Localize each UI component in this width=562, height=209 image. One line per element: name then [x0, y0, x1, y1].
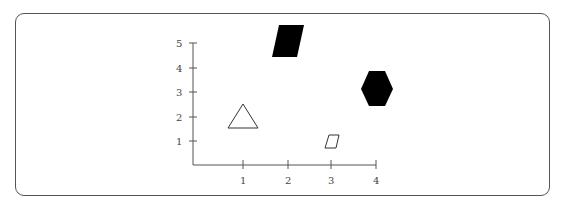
x-tick-label: 4 [373, 175, 379, 186]
y-tick-label: 1 [176, 136, 182, 147]
x-tick-label: 2 [285, 175, 291, 186]
y-tick-label: 3 [176, 87, 182, 98]
triangle-shape [228, 104, 258, 128]
parallelogram-small-shape [325, 135, 339, 148]
coordinate-diagram: 5 4 3 2 1 1 2 3 4 [0, 0, 562, 209]
parallelogram-large-shape [272, 25, 304, 57]
hexagon-shape [361, 71, 393, 106]
y-tick-label: 4 [176, 63, 182, 74]
x-tick-label: 1 [240, 175, 246, 186]
y-tick-label: 2 [176, 112, 182, 123]
y-tick-label: 5 [176, 38, 182, 49]
x-tick-label: 3 [328, 175, 334, 186]
